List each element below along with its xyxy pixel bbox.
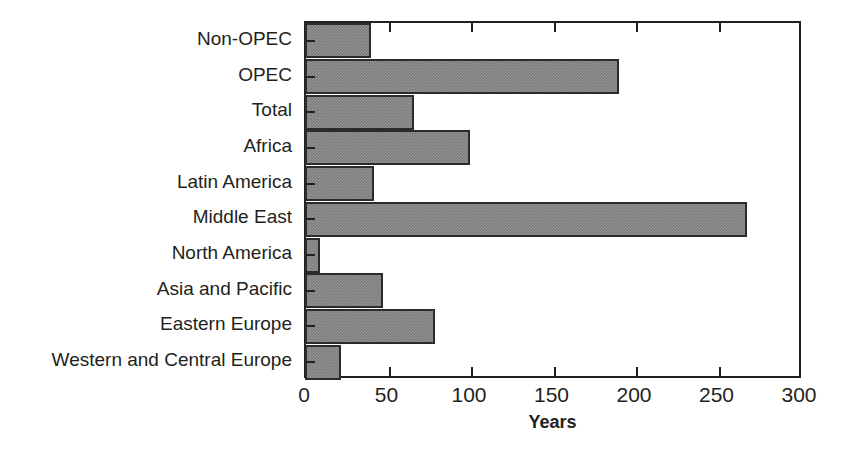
x-axis-tick-top	[471, 23, 473, 32]
bar-middle-east[interactable]	[305, 202, 747, 237]
y-axis-label-total: Total	[252, 100, 292, 119]
plot-area	[304, 21, 801, 378]
x-axis-tick-top	[636, 23, 638, 32]
y-axis-label-africa: Africa	[243, 136, 292, 155]
y-axis-label-north-america: North America	[172, 243, 292, 262]
x-axis-tick-label-50: 50	[375, 383, 398, 407]
x-axis-tick-label-150: 150	[534, 383, 569, 407]
bar-africa[interactable]	[305, 130, 470, 165]
y-axis-tick	[306, 147, 315, 149]
y-axis-tick	[306, 40, 315, 42]
bar-eastern-europe[interactable]	[305, 309, 435, 344]
y-axis-label-asia-and-pacific: Asia and Pacific	[157, 279, 292, 298]
x-axis-tick-top	[554, 23, 556, 32]
x-axis-tick-label-200: 200	[616, 383, 651, 407]
bar-asia-and-pacific[interactable]	[305, 273, 383, 308]
x-axis-tick-label-100: 100	[451, 383, 486, 407]
y-axis-label-western-and-central-europe: Western and Central Europe	[52, 350, 292, 369]
y-axis-tick	[306, 111, 315, 113]
y-axis-tick	[306, 325, 315, 327]
x-axis-title: Years	[304, 412, 801, 433]
chart-page: Non-OPECOPECTotalAfricaLatin AmericaMidd…	[0, 0, 845, 459]
x-axis-tick-label-250: 250	[699, 383, 734, 407]
y-axis-tick	[306, 254, 315, 256]
x-axis-tick-bottom	[719, 367, 721, 376]
y-axis-label-opec: OPEC	[238, 65, 292, 84]
y-axis-label-middle-east: Middle East	[193, 207, 292, 226]
x-axis-tick-bottom	[636, 367, 638, 376]
y-axis-tick	[306, 183, 315, 185]
bar-total[interactable]	[305, 95, 414, 130]
x-axis-tick-bottom	[471, 367, 473, 376]
bar-latin-america[interactable]	[305, 166, 374, 201]
y-axis-tick	[306, 218, 315, 220]
x-axis-tick-top	[389, 23, 391, 32]
x-axis-tick-label-0: 0	[298, 383, 310, 407]
y-axis-label-latin-america: Latin America	[177, 172, 292, 191]
x-axis-tick-label-300: 300	[781, 383, 816, 407]
y-axis-tick	[306, 361, 315, 363]
y-axis-label-eastern-europe: Eastern Europe	[160, 314, 292, 333]
x-axis-tick-bottom	[389, 367, 391, 376]
x-axis-tick-bottom	[554, 367, 556, 376]
y-axis-tick	[306, 290, 315, 292]
bar-opec[interactable]	[305, 59, 619, 94]
x-axis-tick-top	[719, 23, 721, 32]
y-axis-label-non-opec: Non-OPEC	[197, 29, 292, 48]
y-axis-tick	[306, 76, 315, 78]
